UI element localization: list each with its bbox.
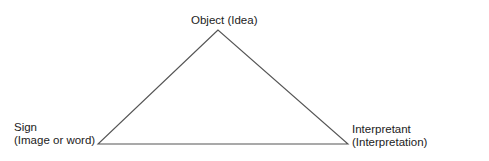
interpretant-label: Interpretant (Interpretation) [352,123,427,149]
sign-label: Sign (Image or word) [14,121,95,147]
object-label: Object (Idea) [191,14,257,27]
sign-subtitle: (Image or word) [14,134,95,147]
interpretant-subtitle: (Interpretation) [352,136,427,149]
interpretant-title: Interpretant [352,123,427,136]
object-title: Object (Idea) [191,14,257,27]
semiotic-triangle-diagram: Object (Idea) Sign (Image or word) Inter… [0,0,489,161]
sign-title: Sign [14,121,95,134]
triangle-outline [98,30,348,144]
